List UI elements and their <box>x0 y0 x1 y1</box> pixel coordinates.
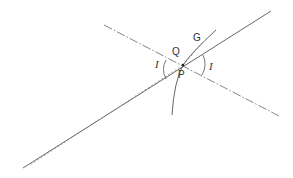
label-angle-right: I <box>209 61 213 72</box>
label-angle-left: I <box>155 59 159 70</box>
label-g: G <box>193 33 201 43</box>
angle-arc-right <box>202 55 205 75</box>
label-p: P <box>178 70 185 80</box>
refraction-diagram <box>0 0 293 178</box>
solid-ray-line <box>23 11 271 168</box>
dash-dot-normal-line <box>104 25 279 116</box>
point-p-dot <box>182 64 185 67</box>
label-q: Q <box>172 47 180 57</box>
